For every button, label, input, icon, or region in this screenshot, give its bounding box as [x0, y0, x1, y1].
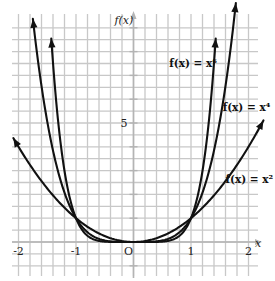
curve-label-x6: f(x) = x⁶: [169, 57, 217, 69]
x-tick-label: O: [124, 245, 133, 258]
x-tick-labels: -2-1O12: [13, 245, 252, 258]
x-axis-title: x: [255, 237, 262, 250]
curve-label-x2: f(x) = x²: [226, 173, 274, 185]
y-tick-labels: 5: [121, 117, 128, 130]
curve-labels: f(x) = x²f(x) = x⁴f(x) = x⁶: [169, 57, 273, 184]
x-tick-label: 1: [188, 245, 195, 258]
y-tick-label: 5: [121, 117, 128, 130]
curve-label-x4: f(x) = x⁴: [223, 101, 271, 113]
x-tick-label: -1: [71, 245, 82, 258]
y-axis-title: f(x): [114, 14, 134, 27]
x-tick-label: 2: [245, 245, 252, 258]
x-tick-label: -2: [13, 245, 24, 258]
power-functions-chart: -2-1O12 5 f(x) = x²f(x) = x⁴f(x) = x⁶ f(…: [0, 0, 275, 281]
grid: [12, 14, 258, 276]
curve-arrowhead-icon: [256, 120, 263, 130]
